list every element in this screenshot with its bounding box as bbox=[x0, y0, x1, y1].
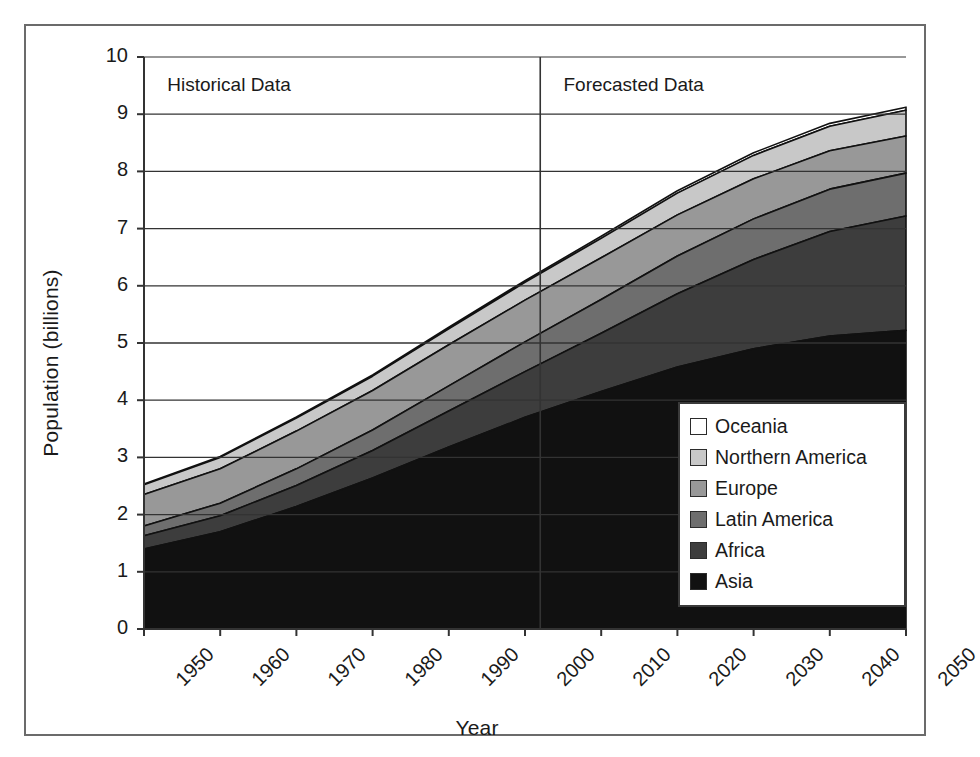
legend-item-label: Europe bbox=[715, 479, 778, 499]
y-tick-label: 4 bbox=[88, 387, 128, 410]
legend-item-europe[interactable]: Europe bbox=[690, 473, 894, 504]
legend-swatch-icon bbox=[690, 418, 707, 435]
chart-legend: OceaniaNorthern AmericaEuropeLatin Ameri… bbox=[678, 402, 906, 607]
legend-item-label: Oceania bbox=[715, 417, 788, 437]
legend-item-label: Northern America bbox=[715, 448, 867, 468]
legend-item-label: Asia bbox=[715, 572, 753, 592]
x-tick-label: 2050 bbox=[933, 643, 980, 691]
annotation-historical-data: Historical Data bbox=[167, 74, 291, 96]
y-tick-label: 2 bbox=[88, 502, 128, 525]
legend-item-label: Africa bbox=[715, 541, 765, 561]
legend-swatch-icon bbox=[690, 573, 707, 590]
legend-item-latin-america[interactable]: Latin America bbox=[690, 504, 894, 535]
y-tick-label: 6 bbox=[88, 273, 128, 296]
legend-item-label: Latin America bbox=[715, 510, 833, 530]
chart-figure-frame: Population (billions) Year 012345678910 … bbox=[24, 24, 926, 736]
population-stacked-area-chart bbox=[26, 26, 928, 738]
y-tick-label: 5 bbox=[88, 330, 128, 353]
y-tick-label: 1 bbox=[88, 559, 128, 582]
annotation-forecasted-data: Forecasted Data bbox=[563, 74, 703, 96]
legend-item-northern-america[interactable]: Northern America bbox=[690, 442, 894, 473]
legend-swatch-icon bbox=[690, 480, 707, 497]
legend-swatch-icon bbox=[690, 449, 707, 466]
legend-swatch-icon bbox=[690, 511, 707, 528]
y-tick-label: 0 bbox=[88, 616, 128, 639]
x-axis-title: Year bbox=[26, 716, 928, 740]
y-tick-label: 9 bbox=[88, 101, 128, 124]
legend-item-africa[interactable]: Africa bbox=[690, 535, 894, 566]
y-tick-label: 3 bbox=[88, 444, 128, 467]
legend-item-oceania[interactable]: Oceania bbox=[690, 411, 894, 442]
legend-item-asia[interactable]: Asia bbox=[690, 566, 894, 597]
legend-swatch-icon bbox=[690, 542, 707, 559]
y-tick-label: 10 bbox=[88, 44, 128, 67]
y-tick-label: 7 bbox=[88, 216, 128, 239]
y-tick-label: 8 bbox=[88, 158, 128, 181]
y-axis-title: Population (billions) bbox=[39, 203, 63, 523]
